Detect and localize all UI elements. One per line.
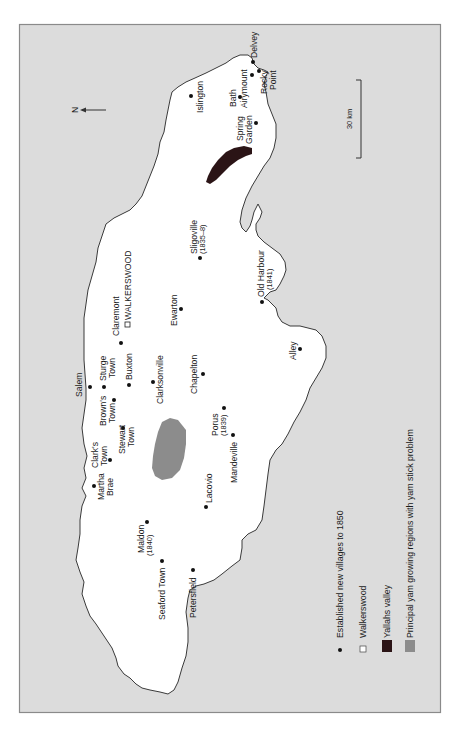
label-petersfield: Petersfield: [188, 577, 198, 618]
village-dot-lacovio: [204, 505, 208, 509]
label-salem: Salem: [74, 373, 84, 397]
village-dot-spring-garden: [254, 121, 258, 125]
label-seaford-town: Seaford Town: [157, 567, 167, 620]
label-walkerswood: WALKERSWOOD: [123, 251, 133, 320]
label-point: Point: [268, 70, 278, 90]
legend-dot-icon: [338, 648, 342, 652]
legend-item-walkerswood: [360, 646, 366, 652]
jamaica-map: N 30 km: [0, 0, 450, 739]
village-dot-chapelton: [201, 372, 205, 376]
legend-grey-square-icon: [405, 640, 415, 652]
village-dot-delvey: [251, 60, 255, 64]
village-dot-buxton: [127, 383, 131, 387]
label-mandeville: Mandeville: [229, 442, 239, 483]
village-dot-claremont: [119, 341, 123, 345]
village-dot-mandeville: [231, 433, 235, 437]
legend-label-yam: Principal yam growing regions with yam s…: [405, 429, 415, 638]
village-dot-sligoville: [198, 256, 202, 260]
village-dot-sturge-town: [102, 385, 106, 389]
legend-item-yallahs: Yallahs valley: [382, 584, 392, 652]
legend-dark-square-icon: [382, 640, 392, 652]
village-dot-maldon: [145, 520, 149, 524]
label-lacovio: Lacovio: [204, 473, 214, 503]
legend-item-villages: Established new villages to 1850: [335, 510, 345, 652]
village-dot-airymount: [250, 73, 254, 77]
label-clarks-town: Town: [99, 446, 109, 466]
label-sligoville-years: (1835–8): [198, 224, 207, 254]
scale-label: 30 km: [345, 109, 354, 129]
label-garden: Garden: [244, 115, 254, 144]
legend-white-square-icon: [360, 646, 366, 652]
legend-item-yam: Principal yam growing regions with yam s…: [405, 429, 415, 652]
label-sturge-town: Town: [107, 358, 117, 378]
label-chapelton: Chapelton: [189, 355, 199, 394]
label-claremont: Claremont: [111, 296, 121, 336]
village-dot-alley: [298, 347, 302, 351]
village-dot-islington: [189, 94, 193, 98]
label-old-harbour-year: (1841): [265, 269, 274, 290]
legend-label-villages: Established new villages to 1850: [335, 510, 345, 638]
label-porus-year: (1839): [219, 415, 228, 436]
legend-label-yallahs: Yallahs valley: [382, 584, 392, 638]
label-brae: Brae: [105, 478, 115, 496]
label-browns-town: Town: [107, 403, 117, 423]
north-label: N: [70, 107, 80, 113]
village-dot-porus: [222, 406, 226, 410]
village-dot-ewarton: [179, 307, 183, 311]
label-buxton: Buxton: [124, 353, 134, 380]
walkerswood-marker: [125, 322, 130, 327]
label-maldon-year: (1840): [145, 535, 154, 556]
village-dot-old-harbour: [260, 300, 264, 304]
legend-label-walkerswood: Walkerswood: [358, 585, 368, 638]
label-alley: Alley: [288, 341, 298, 360]
label-clarksonville: Clarksonville: [155, 355, 165, 404]
label-airymount: Airymount: [239, 69, 249, 108]
village-dot-seaford-town: [160, 559, 164, 563]
village-dot-browns-town: [112, 398, 116, 402]
village-dot-salem: [88, 385, 92, 389]
label-delvey: Delvey: [249, 31, 259, 58]
label-ewarton: Ewarton: [169, 294, 179, 326]
label-bath: Bath: [228, 89, 238, 107]
label-islington: Islington: [195, 81, 205, 113]
village-dot-petersfield: [191, 568, 195, 572]
label-stewart-town: Town: [126, 427, 136, 447]
